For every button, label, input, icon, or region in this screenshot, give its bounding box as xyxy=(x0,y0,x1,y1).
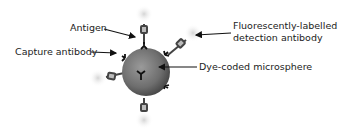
capture-antibody-label: Capture antibody xyxy=(15,46,98,58)
detection-antibody-label-line2: detection antibody xyxy=(233,32,323,44)
microsphere-label: Dye-coded microsphere xyxy=(199,61,312,73)
detection-antibody-label-line1: Fluorescently-labelled xyxy=(233,20,337,32)
antigen-label: Antigen xyxy=(70,22,107,34)
microsphere-icon xyxy=(122,48,170,96)
